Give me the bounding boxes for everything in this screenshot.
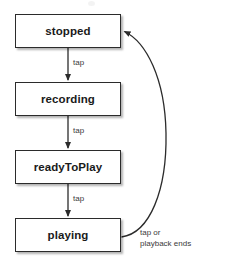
state-node-recording[interactable]: recording	[15, 82, 121, 116]
state-diagram-canvas: stopped recording readyToPlay playing ta…	[0, 0, 225, 268]
edge-label-recording-to-readytoplay: tap	[73, 126, 84, 137]
edge-label-readytoplay-to-playing: tap	[73, 194, 84, 205]
edge-playing-to-stopped	[122, 32, 167, 238]
state-label-readytoplay: readyToPlay	[34, 161, 103, 173]
state-node-readytoplay[interactable]: readyToPlay	[15, 150, 121, 184]
state-label-stopped: stopped	[45, 25, 90, 37]
state-node-playing[interactable]: playing	[15, 218, 121, 252]
edge-label-stopped-to-recording: tap	[73, 58, 84, 69]
state-label-playing: playing	[48, 229, 89, 241]
state-label-recording: recording	[41, 93, 95, 105]
edge-label-playing-to-stopped: tap or playback ends	[140, 228, 191, 249]
state-node-stopped[interactable]: stopped	[15, 14, 121, 48]
